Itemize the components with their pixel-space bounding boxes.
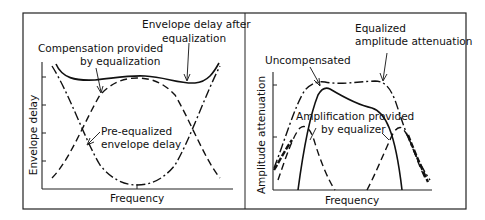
amplification-label-2: by equalizer xyxy=(321,123,386,135)
uncompensated-label: Uncompensated xyxy=(265,54,351,66)
amplification-label-1: Amplification provided xyxy=(296,110,414,122)
left-panel-envelope-delay: Envelope delay after equalization Compen… xyxy=(27,18,251,204)
equalized-label-2: amplitude attenuation xyxy=(355,35,472,47)
right-panel-amplitude-attenuation: Equalized amplitude attenuation Uncompen… xyxy=(255,22,472,206)
compensation-label-1: Compensation provided xyxy=(38,42,163,54)
uncompensated-arrow xyxy=(310,67,320,85)
left-x-axis-label: Frequency xyxy=(110,192,164,204)
equalization-diagram: Envelope delay after equalization Compen… xyxy=(0,0,485,220)
amplification-right-lobe xyxy=(367,128,425,191)
after-eq-label-2: equalization xyxy=(162,32,226,44)
compensation-label-2: by equalization xyxy=(80,55,160,67)
pre-equalized-label-2: envelope delay xyxy=(101,138,181,150)
left-y-ticks xyxy=(42,77,46,161)
after-eq-arrow xyxy=(187,43,189,80)
right-y-axis-label: Amplitude attenuation xyxy=(255,76,267,194)
right-y-ticks xyxy=(273,85,277,137)
pre-equalized-label-1: Pre-equalized xyxy=(101,125,172,137)
left-y-axis-label: Envelope delay xyxy=(27,95,39,175)
equalized-label-1: Equalized xyxy=(355,22,406,34)
after-eq-label-1: Envelope delay after xyxy=(142,18,251,30)
right-x-axis-label: Frequency xyxy=(325,194,379,206)
